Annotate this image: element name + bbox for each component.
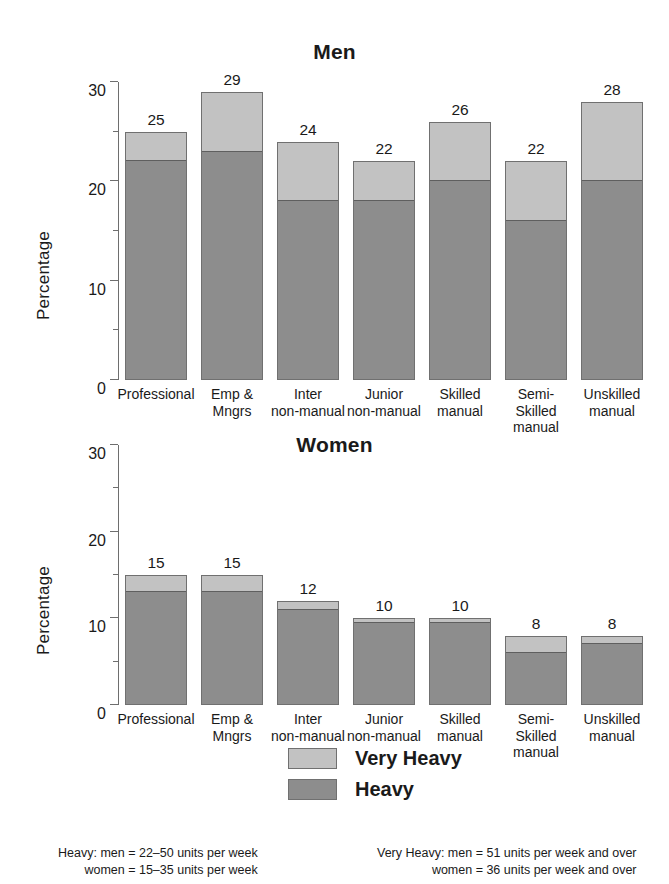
y-tick-major (110, 617, 118, 618)
men-y-axis-label: Percentage (34, 231, 54, 320)
category-label: Emp & Mngrs (189, 711, 275, 744)
legend-label-heavy: Heavy (355, 778, 414, 801)
bar-segment-heavy[interactable] (354, 200, 414, 379)
category-label: Inter non-manual (265, 386, 351, 419)
bar-segment-heavy[interactable] (430, 622, 490, 704)
y-tick-major (110, 280, 118, 281)
men-chart-panel: Men Percentage 25292422262228 0102030Pro… (0, 30, 669, 430)
bar-segment-heavy[interactable] (202, 151, 262, 379)
category-label: Skilled manual (417, 711, 503, 744)
category-label: Unskilled manual (569, 711, 655, 744)
y-tick-minor (113, 661, 118, 662)
bar-value-label: 12 (277, 580, 339, 598)
women-plot-area: 151512101088 0102030ProfessionalEmp & Mn… (118, 445, 650, 705)
y-tick-minor (113, 574, 118, 575)
y-tick-minor (113, 230, 118, 231)
bar-segment-very-heavy[interactable] (354, 162, 414, 202)
category-label: Emp & Mngrs (189, 386, 275, 419)
stacked-bar[interactable] (353, 618, 415, 705)
stacked-bar[interactable] (581, 636, 643, 705)
stacked-bar[interactable] (429, 122, 491, 380)
y-tick-minor (113, 487, 118, 488)
y-tick-minor (113, 329, 118, 330)
category-label: Professional (113, 711, 199, 728)
stacked-bar[interactable] (277, 142, 339, 380)
y-tick-major (110, 81, 118, 82)
bar-value-label: 8 (581, 615, 643, 633)
bar-value-label: 15 (125, 554, 187, 572)
category-label: Junior non-manual (341, 711, 427, 744)
bar-group: 24 (277, 82, 339, 380)
stacked-bar[interactable] (505, 161, 567, 380)
category-label: Skilled manual (417, 386, 503, 419)
bar-group: 28 (581, 82, 643, 380)
bar-group: 22 (353, 82, 415, 380)
bar-value-label: 8 (505, 615, 567, 633)
bar-group: 8 (505, 445, 567, 705)
bar-segment-very-heavy[interactable] (582, 103, 642, 182)
bar-value-label: 28 (581, 81, 643, 99)
legend-label-very-heavy: Very Heavy (355, 747, 462, 770)
women-chart-panel: Women Percentage 151512101088 0102030Pro… (0, 425, 669, 725)
bar-value-label: 10 (429, 597, 491, 615)
bar-group: 15 (201, 445, 263, 705)
bar-segment-heavy[interactable] (126, 591, 186, 704)
bar-segment-heavy[interactable] (278, 609, 338, 704)
bar-group: 10 (353, 445, 415, 705)
y-tick-minor (113, 131, 118, 132)
bar-segment-heavy[interactable] (506, 220, 566, 379)
bar-segment-very-heavy[interactable] (126, 133, 186, 163)
y-tick-major (110, 531, 118, 532)
footnote-very-heavy: Very Heavy: men = 51 units per week and … (377, 845, 637, 879)
bar-group: 8 (581, 445, 643, 705)
bar-group: 26 (429, 82, 491, 380)
bar-segment-heavy[interactable] (582, 643, 642, 704)
bar-group: 29 (201, 82, 263, 380)
stacked-bar[interactable] (353, 161, 415, 380)
bar-segment-heavy[interactable] (582, 180, 642, 379)
bar-group: 25 (125, 82, 187, 380)
y-tick-major (110, 379, 118, 380)
category-label: Semi- Skilled manual (493, 711, 579, 761)
stacked-bar[interactable] (201, 92, 263, 380)
bar-segment-heavy[interactable] (126, 160, 186, 379)
women-bars-container: 151512101088 (118, 445, 650, 705)
bar-group: 12 (277, 445, 339, 705)
category-label: Inter non-manual (265, 711, 351, 744)
category-label: Professional (113, 386, 199, 403)
chart-legend: Very Heavy Heavy (288, 745, 462, 807)
bar-segment-heavy[interactable] (506, 652, 566, 704)
stacked-bar[interactable] (429, 618, 491, 705)
stacked-bar[interactable] (581, 102, 643, 380)
bar-segment-heavy[interactable] (354, 622, 414, 704)
stacked-bar[interactable] (125, 132, 187, 380)
footnote-heavy-line1: Heavy: men = 22–50 units per week (58, 846, 258, 860)
bar-group: 10 (429, 445, 491, 705)
women-y-axis-label: Percentage (34, 566, 54, 655)
footnote-heavy-line2: women = 15–35 units per week (58, 862, 258, 879)
stacked-bar[interactable] (277, 601, 339, 705)
stacked-bar[interactable] (125, 575, 187, 705)
bar-segment-very-heavy[interactable] (430, 123, 490, 183)
bar-value-label: 22 (505, 140, 567, 158)
men-bars-container: 25292422262228 (118, 82, 650, 380)
bar-segment-very-heavy[interactable] (202, 93, 262, 153)
bar-segment-very-heavy[interactable] (506, 162, 566, 222)
stacked-bar[interactable] (201, 575, 263, 705)
bar-segment-heavy[interactable] (430, 180, 490, 379)
bar-group: 22 (505, 82, 567, 380)
footnote-very-heavy-line2: women = 36 units per week and over (377, 862, 637, 879)
stacked-bar[interactable] (505, 636, 567, 705)
bar-value-label: 15 (201, 554, 263, 572)
category-label: Unskilled manual (569, 386, 655, 419)
footnote-very-heavy-line1: Very Heavy: men = 51 units per week and … (377, 846, 637, 860)
bar-value-label: 22 (353, 140, 415, 158)
bar-segment-heavy[interactable] (202, 591, 262, 704)
bar-segment-very-heavy[interactable] (278, 143, 338, 203)
bar-segment-heavy[interactable] (278, 200, 338, 379)
legend-item-heavy: Heavy (288, 776, 462, 802)
y-tick-major (110, 444, 118, 445)
y-tick-major (110, 180, 118, 181)
bar-value-label: 25 (125, 111, 187, 129)
bar-value-label: 29 (201, 71, 263, 89)
